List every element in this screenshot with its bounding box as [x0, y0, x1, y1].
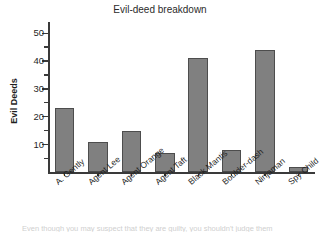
- y-axis-tick-label: 30: [4, 83, 44, 94]
- y-axis-tick-label: 50: [4, 27, 44, 38]
- y-axis-tick-label: 10: [4, 139, 44, 150]
- bar: [188, 58, 208, 172]
- y-axis-tick-label: 40: [4, 55, 44, 66]
- y-axis-label: Evil Deeds: [9, 71, 19, 131]
- chart-figure: Evil-deed breakdown Evil Deeds 102030405…: [0, 0, 327, 232]
- y-axis-minor-tick: [44, 74, 49, 75]
- y-axis-line: [48, 22, 50, 174]
- y-axis-minor-tick: [44, 102, 49, 103]
- cropped-footer-text: Even though you may suspect that they ar…: [22, 224, 322, 232]
- chart-title: Evil-deed breakdown: [60, 4, 260, 15]
- y-axis-tick-label: 20: [4, 111, 44, 122]
- y-axis-minor-tick: [44, 130, 49, 131]
- y-axis-minor-tick: [44, 46, 49, 47]
- y-axis-minor-tick: [44, 158, 49, 159]
